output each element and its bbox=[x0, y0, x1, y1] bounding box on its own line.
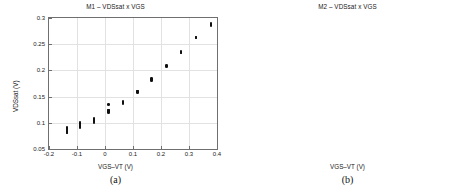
x-axis-label-a: VGS–VT (V) bbox=[0, 163, 231, 170]
data-point bbox=[122, 102, 125, 105]
gridline-vertical-a bbox=[189, 18, 190, 149]
x-tick-a bbox=[77, 146, 78, 149]
data-point bbox=[93, 122, 96, 125]
chart-title-b: M2 – VDSsat x VGS bbox=[232, 3, 463, 10]
y-tick-a bbox=[49, 70, 52, 71]
y-tick-label-a: 0.2 bbox=[37, 67, 45, 73]
gridline-horizontal-a bbox=[49, 97, 217, 98]
y-tick-a bbox=[49, 149, 52, 150]
figure-two-scatter-panels: M1 – VDSsat x VGS -0.2-0.100.10.20.30.40… bbox=[0, 0, 463, 195]
gridline-vertical-a bbox=[133, 18, 134, 149]
plot-area-a: -0.2-0.100.10.20.30.40.050.10.150.20.250… bbox=[48, 17, 218, 150]
gridline-vertical-a bbox=[105, 18, 106, 149]
x-tick-label-a: -0.2 bbox=[44, 151, 54, 157]
data-point bbox=[180, 52, 183, 55]
gridline-vertical-a bbox=[77, 18, 78, 149]
x-tick-label-a: 0.2 bbox=[157, 151, 165, 157]
y-axis-label-a: VDSsat (V) bbox=[12, 81, 19, 113]
x-axis-label-b: VGS–VT (V) bbox=[232, 163, 463, 170]
data-point bbox=[107, 111, 110, 114]
data-point bbox=[165, 65, 168, 68]
y-tick-label-a: 0.05 bbox=[33, 146, 45, 152]
gridline-horizontal-a bbox=[49, 123, 217, 124]
x-tick-label-a: -0.1 bbox=[72, 151, 82, 157]
y-tick-a bbox=[49, 44, 52, 45]
data-point bbox=[210, 24, 213, 27]
data-point bbox=[79, 126, 82, 129]
gridline-horizontal-a bbox=[49, 70, 217, 71]
data-point bbox=[150, 79, 153, 82]
panel-a: M1 – VDSsat x VGS -0.2-0.100.10.20.30.40… bbox=[0, 0, 231, 195]
data-point bbox=[136, 91, 139, 94]
y-tick-label-a: 0.1 bbox=[37, 120, 45, 126]
y-tick-a bbox=[49, 18, 52, 19]
x-tick-label-a: 0.4 bbox=[213, 151, 221, 157]
x-tick-a bbox=[133, 146, 134, 149]
x-tick-a bbox=[189, 146, 190, 149]
x-tick-a bbox=[217, 146, 218, 149]
x-tick-label-a: 0.3 bbox=[185, 151, 193, 157]
x-tick-a bbox=[161, 146, 162, 149]
x-tick-a bbox=[105, 146, 106, 149]
y-tick-a bbox=[49, 97, 52, 98]
x-tick-label-a: 0 bbox=[103, 151, 106, 157]
data-point bbox=[107, 103, 110, 106]
panel-b: M2 – VDSsat x VGS -0.2-0.100.10.20.30.05… bbox=[232, 0, 463, 195]
panel-caption-a: (a) bbox=[0, 174, 231, 185]
gridline-vertical-a bbox=[161, 18, 162, 149]
panel-caption-b: (b) bbox=[232, 174, 463, 185]
x-tick-label-a: 0.1 bbox=[129, 151, 137, 157]
y-tick-label-a: 0.3 bbox=[37, 15, 45, 21]
chart-title-a: M1 – VDSsat x VGS bbox=[0, 3, 231, 10]
data-point bbox=[66, 132, 69, 135]
data-point bbox=[195, 37, 198, 40]
y-tick-label-a: 0.25 bbox=[33, 41, 45, 47]
gridline-horizontal-a bbox=[49, 44, 217, 45]
y-tick-label-a: 0.15 bbox=[33, 94, 45, 100]
y-tick-a bbox=[49, 123, 52, 124]
